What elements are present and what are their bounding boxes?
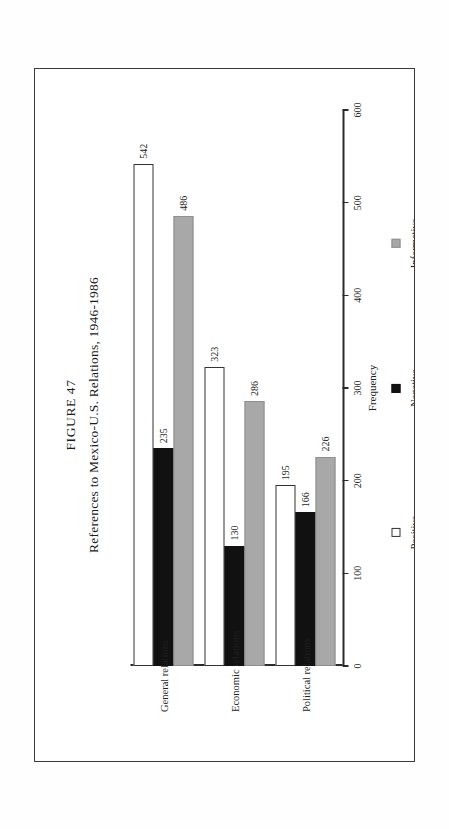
bar-value-label: 286 (249, 381, 260, 396)
axis-tick-label: 200 (351, 473, 362, 488)
bar-value-label: 195 (279, 465, 290, 480)
bar-value-label: 130 (229, 526, 240, 541)
bar-value-label: 166 (299, 492, 310, 507)
bar-value-label: 542 (138, 144, 149, 159)
legend-label: Informative (408, 219, 415, 269)
bar-negative (153, 448, 173, 666)
legend-item-negative: Negative (386, 369, 415, 407)
bar-value-label: 226 (319, 437, 330, 452)
legend-swatch-informative (391, 239, 400, 248)
axis-tick (342, 109, 348, 110)
figure-title-block: FIGURE 47 References to Mexico-U.S. Rela… (60, 68, 103, 762)
axis-tick-label: 100 (351, 566, 362, 581)
rotated-figure-canvas: FIGURE 47 References to Mexico-U.S. Rela… (34, 68, 415, 762)
document-page: FIGURE 47 References to Mexico-U.S. Rela… (0, 0, 449, 829)
category-label: Political relations (300, 638, 311, 712)
legend-swatch-negative (391, 384, 400, 393)
legend-item-informative: Informative (386, 219, 415, 269)
bar-informative (315, 457, 335, 666)
axis-tick (342, 387, 348, 388)
category-label: General relations (158, 640, 169, 712)
axis-tick-label: 0 (351, 664, 362, 669)
legend-label: Positive (408, 516, 415, 550)
chart-legend: PositiveNegativeInformative (386, 110, 415, 666)
bar-informative (244, 401, 264, 666)
axis-tick-label: 300 (351, 381, 362, 396)
figure-number: FIGURE 47 (60, 68, 79, 762)
figure-caption: References to Mexico-U.S. Relations, 194… (82, 68, 103, 762)
axis-tick (342, 665, 348, 666)
legend-item-positive: Positive (386, 516, 415, 550)
axis-tick-label: 400 (351, 288, 362, 303)
axis-tick (342, 295, 348, 296)
axis-tick (342, 480, 348, 481)
figure-border: FIGURE 47 References to Mexico-U.S. Rela… (34, 68, 415, 762)
plot-area: 542235486323130286195166226 General rela… (130, 110, 342, 666)
bar-informative (173, 216, 193, 666)
bar-positive (275, 485, 295, 666)
bar-positive (204, 367, 224, 666)
axis-tick-label: 600 (351, 103, 362, 118)
axis-tick (342, 573, 348, 574)
legend-label: Negative (408, 369, 415, 407)
bar-value-label: 323 (209, 347, 220, 362)
bar-positive (133, 164, 153, 666)
legend-swatch-positive (391, 528, 400, 537)
axis-tick (342, 202, 348, 203)
axis-tick-label: 500 (351, 195, 362, 210)
category-label: Economic relations (229, 631, 240, 712)
value-axis-title: Frequency (365, 110, 377, 666)
bar-value-label: 235 (158, 428, 169, 443)
bar-value-label: 486 (178, 196, 189, 211)
